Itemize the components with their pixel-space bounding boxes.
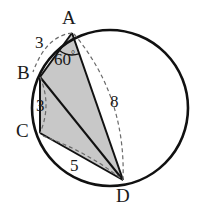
angle-label-a: 60° [54,50,75,68]
geometry-canvas [0,0,210,217]
length-label-bc: 3 [36,97,45,114]
geometry-figure: A B C D 3 3 5 8 60° [0,0,210,217]
length-label-cd: 5 [70,157,79,174]
vertex-label-a: A [62,8,76,27]
length-label-ab: 3 [35,34,44,51]
degree-symbol: ° [71,49,75,60]
vertex-label-b: B [17,63,30,82]
angle-value: 60 [54,50,71,69]
vertex-label-d: D [116,186,130,205]
vertex-label-c: C [16,121,29,140]
length-label-ad: 8 [110,93,119,110]
